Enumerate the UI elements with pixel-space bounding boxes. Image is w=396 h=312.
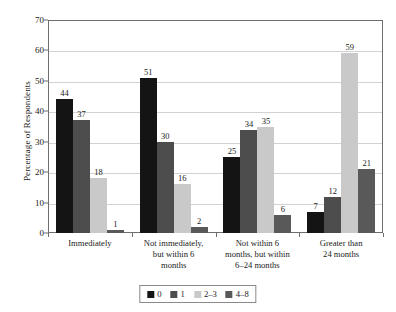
bar-groups: 4437181513016225343567125921 (48, 20, 383, 233)
x-axis-category-line: but within 6 (133, 249, 215, 260)
x-axis-category-line: months, but within (217, 249, 299, 260)
bar[interactable] (240, 130, 257, 233)
legend-swatch-icon (147, 291, 154, 298)
y-tick-label: 20 (0, 167, 44, 177)
x-axis-category-line: Not immediately, (133, 238, 215, 249)
y-tick-label: 60 (0, 45, 44, 55)
x-axis-category-label: Immediately (48, 238, 132, 271)
legend-item[interactable]: 2–3 (194, 289, 217, 299)
bar-item: 7 (307, 20, 324, 233)
bar[interactable] (307, 212, 324, 233)
bar-item: 1 (107, 20, 124, 233)
bar-group: 7125921 (299, 20, 383, 233)
bar[interactable] (358, 169, 375, 233)
x-axis-category-line: Not within 6 (217, 238, 299, 249)
x-tick-mark (48, 233, 49, 237)
y-tick-label: 30 (0, 137, 44, 147)
legend-label: 1 (181, 289, 185, 299)
legend-label: 4–8 (236, 289, 249, 299)
bar-item: 18 (90, 20, 107, 233)
bar-item: 21 (358, 20, 375, 233)
bar[interactable] (157, 142, 174, 233)
y-tick-label: 10 (0, 198, 44, 208)
x-tick-mark (216, 233, 217, 237)
x-axis-category-label: Not immediately,but within 6months (132, 238, 216, 271)
bar-item: 44 (56, 20, 73, 233)
bar-chart: Percentage of Respondents 01020304050607… (0, 0, 396, 312)
bar[interactable] (324, 197, 341, 234)
bar-item: 30 (157, 20, 174, 233)
bar[interactable] (341, 53, 358, 233)
legend-swatch-icon (194, 291, 201, 298)
legend-item[interactable]: 1 (171, 289, 185, 299)
bar-item: 6 (274, 20, 291, 233)
legend-item[interactable]: 4–8 (226, 289, 249, 299)
bar-item: 16 (174, 20, 191, 233)
legend-item[interactable]: 0 (147, 289, 161, 299)
x-axis-category-line: 24 months (300, 249, 382, 260)
legend-swatch-icon (171, 291, 178, 298)
bar-item: 2 (191, 20, 208, 233)
bar-value-label: 2 (184, 216, 214, 226)
x-axis-category-label: Greater than24 months (299, 238, 383, 271)
x-axis-category-line: Immediately (49, 238, 131, 249)
bar[interactable] (257, 127, 274, 234)
bar[interactable] (140, 78, 157, 233)
y-tick-label: 50 (0, 76, 44, 86)
bar-group: 5130162 (132, 20, 216, 233)
x-tick-mark (299, 233, 300, 237)
legend-label: 2–3 (204, 289, 217, 299)
bar-item: 59 (341, 20, 358, 233)
bar[interactable] (107, 230, 124, 233)
chart-legend: 012–34–8 (139, 285, 256, 303)
bar[interactable] (223, 157, 240, 233)
bar-item: 51 (140, 20, 157, 233)
x-tick-mark (132, 233, 133, 237)
y-tick-label: 70 (0, 15, 44, 25)
x-axis-category-line: months (133, 260, 215, 271)
bar-value-label: 1 (100, 219, 130, 229)
bar-value-label: 6 (268, 204, 298, 214)
bar-item: 37 (73, 20, 90, 233)
bar-group: 4437181 (48, 20, 132, 233)
x-axis-category-label: Not within 6months, but within6–24 month… (216, 238, 300, 271)
y-tick-label: 0 (0, 228, 44, 238)
bar-item: 34 (240, 20, 257, 233)
legend-swatch-icon (226, 291, 233, 298)
bar-value-label: 21 (352, 158, 382, 168)
bar[interactable] (274, 215, 291, 233)
x-axis-category-line: 6–24 months (217, 260, 299, 271)
bar[interactable] (191, 227, 208, 233)
x-tick-mark (383, 233, 384, 237)
x-axis-category-line: Greater than (300, 238, 382, 249)
y-tick-label: 40 (0, 106, 44, 116)
bar-group: 2534356 (216, 20, 300, 233)
bar-item: 35 (257, 20, 274, 233)
legend-label: 0 (157, 289, 161, 299)
x-axis-labels: ImmediatelyNot immediately,but within 6m… (48, 238, 383, 271)
